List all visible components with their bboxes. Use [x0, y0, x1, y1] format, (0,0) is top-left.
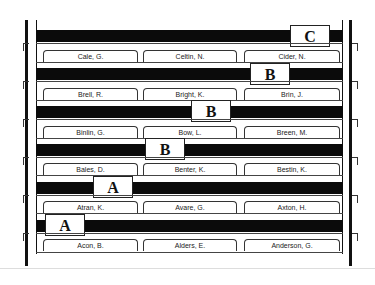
folder-edge [36, 175, 343, 176]
folder-tab: Avare, G. [143, 201, 237, 213]
folder-tab: Bright, K. [143, 88, 237, 100]
folder-edge [36, 252, 343, 253]
rod-line [36, 195, 343, 196]
guide-card-bar [36, 106, 343, 118]
rod-line [36, 43, 343, 44]
rod-hook-left [23, 43, 29, 51]
folder-tab: Bestin, K. [244, 163, 340, 175]
folder-tab: Bow, L. [143, 126, 237, 138]
folder-tab: Cider, N. [244, 50, 340, 62]
right-inner-rail [342, 20, 343, 254]
guide-card-bar [36, 182, 343, 194]
rod-hook-left [23, 81, 29, 89]
folder-tab: Alders, E. [143, 239, 237, 251]
rod-hook-right [352, 81, 358, 89]
folder-tab: Cale, G. [43, 50, 138, 62]
rod-line [36, 81, 343, 82]
rod-hook-right [352, 233, 358, 241]
folder-tab: Axton, H. [244, 201, 340, 213]
rod-hook-right [352, 195, 358, 203]
rod-hook-left [23, 119, 29, 127]
rod-line [36, 233, 343, 234]
rod-hook-right [352, 157, 358, 165]
guide-card-bar [36, 68, 343, 80]
rod-hook-left [23, 157, 29, 165]
guide-card-bar [36, 144, 343, 156]
left-inner-rail [36, 20, 37, 254]
left-outer-rail [25, 20, 28, 266]
folder-tab: Binlin, G. [43, 126, 138, 138]
rod-hook-left [23, 195, 29, 203]
folder-tab: Anderson, G. [244, 239, 340, 251]
folder-tab: Benter, K. [143, 163, 237, 175]
folder-edge [36, 138, 343, 139]
folder-tab: Celtin, N. [143, 50, 237, 62]
folder-tab: Atran, K. [43, 201, 138, 213]
rod-hook-left [23, 233, 29, 241]
rod-hook-right [352, 119, 358, 127]
rod-hook-right [352, 43, 358, 51]
folder-edge [36, 100, 343, 101]
floor-line [0, 268, 375, 269]
right-outer-rail [349, 20, 352, 266]
rod-line [36, 157, 343, 158]
folder-edge [36, 62, 343, 63]
folder-tab: Breen, M. [244, 126, 340, 138]
folder-tab: Brin, J. [244, 88, 340, 100]
folder-tab: Bales, D. [43, 163, 138, 175]
rod-line [36, 119, 343, 120]
folder-tab: Acon, B. [43, 239, 138, 251]
folder-tab: Brell, R. [43, 88, 138, 100]
